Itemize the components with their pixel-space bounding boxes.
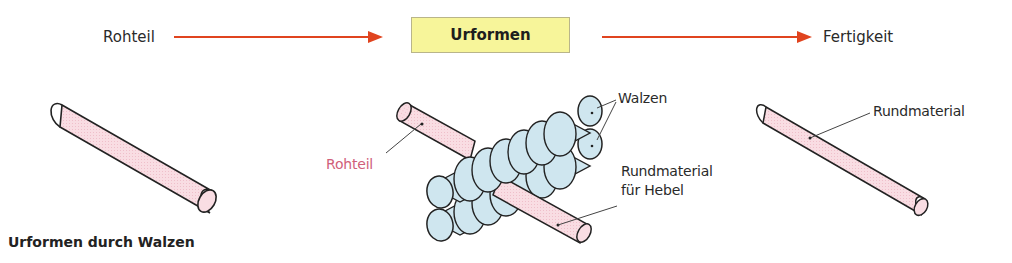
raw-bar-illustration (51, 104, 220, 216)
process-box: Urformen (411, 17, 570, 53)
rolls-label: Walzen (618, 90, 667, 106)
figure-caption: Urformen durch Walzen (8, 234, 195, 250)
raw-part-label: Rohteil (326, 156, 373, 172)
product-label-line2: für Hebel (621, 182, 684, 198)
rolling-mill-illustration (386, 96, 617, 245)
flow-arrow-1 (174, 31, 383, 43)
flow-arrow-2 (602, 31, 812, 43)
input-label: Rohteil (103, 28, 155, 46)
product-label-line1: Rundmaterial (621, 163, 713, 179)
output-label: Fertigkeit (823, 28, 893, 46)
finished-bar-illustration (757, 105, 931, 218)
finished-product-label: Rundmaterial (873, 103, 965, 119)
